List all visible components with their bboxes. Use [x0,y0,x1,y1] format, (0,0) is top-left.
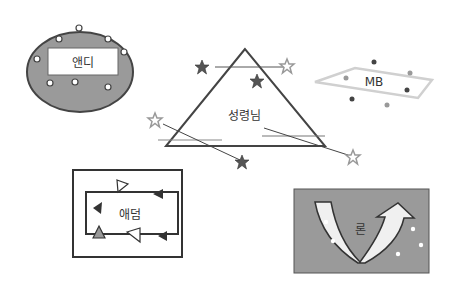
star-icon [235,155,249,169]
star-icon [148,113,162,127]
star-icon [346,150,360,164]
rectangle-label: 애덤 [119,205,141,222]
star-icon [280,59,294,73]
parallelogram-label: MB [365,75,384,89]
diagram-canvas [0,0,458,291]
star-icon [195,60,209,74]
oval-label: 앤디 [72,53,94,70]
triangle-label: 성령님 [228,106,261,123]
arrow-box-label: 론 [355,220,366,237]
